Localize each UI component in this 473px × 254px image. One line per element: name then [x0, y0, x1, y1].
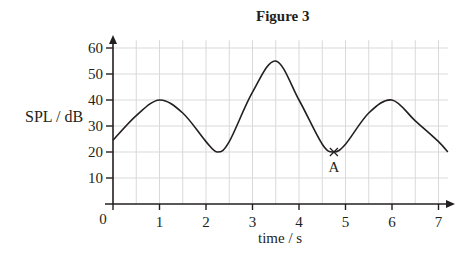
spl-curve — [113, 61, 448, 152]
svg-text:4: 4 — [295, 214, 303, 230]
svg-text:6: 6 — [388, 214, 396, 230]
svg-text:7: 7 — [435, 214, 443, 230]
svg-text:30: 30 — [88, 118, 103, 134]
line-chart: 10203040506001234567 A — [0, 0, 473, 254]
axes — [105, 35, 455, 208]
svg-text:1: 1 — [156, 214, 164, 230]
svg-text:5: 5 — [342, 214, 350, 230]
svg-text:A: A — [328, 159, 339, 175]
svg-text:40: 40 — [88, 92, 103, 108]
svg-text:3: 3 — [249, 214, 257, 230]
svg-text:20: 20 — [88, 144, 103, 160]
svg-text:2: 2 — [202, 214, 210, 230]
svg-text:50: 50 — [88, 66, 103, 82]
svg-text:60: 60 — [88, 40, 103, 56]
svg-text:0: 0 — [99, 211, 107, 227]
svg-text:10: 10 — [88, 170, 103, 186]
